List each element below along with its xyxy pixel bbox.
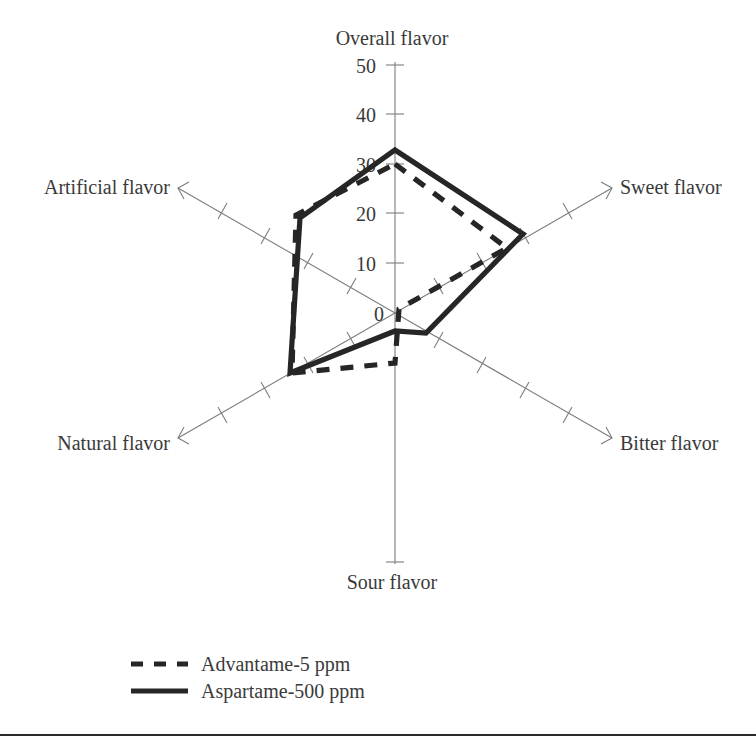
radar-chart-figure: 50 40 30 20 10 0 Overall flavor Sweet fl… xyxy=(0,0,756,741)
legend-item-aspartame: Aspartame-500 ppm xyxy=(131,680,365,703)
tick-natural-40 xyxy=(218,407,227,423)
series-group xyxy=(290,150,523,373)
radar-chart-svg: 50 40 30 20 10 0 Overall flavor Sweet fl… xyxy=(0,0,756,741)
bottom-divider-rule xyxy=(0,734,756,736)
axis-arrow-bitter-flavor xyxy=(601,427,612,444)
axis-label-bitter-flavor: Bitter flavor xyxy=(620,432,719,454)
axis-label-sweet-flavor: Sweet flavor xyxy=(620,176,722,198)
legend-label-aspartame: Aspartame-500 ppm xyxy=(201,680,365,703)
tick-label-20: 20 xyxy=(356,203,376,225)
tick-label-10: 10 xyxy=(356,253,376,275)
axis-label-natural-flavor: Natural flavor xyxy=(57,432,170,454)
axis-line-natural-flavor xyxy=(178,313,395,438)
tick-label-group: 50 40 30 20 10 0 xyxy=(356,55,384,325)
tick-label-0: 0 xyxy=(374,303,384,325)
tick-sweet-40 xyxy=(563,203,572,219)
legend: Advantame-5 ppm Aspartame-500 ppm xyxy=(131,653,365,703)
legend-item-advantame: Advantame-5 ppm xyxy=(131,653,351,676)
tick-label-50: 50 xyxy=(356,55,376,77)
axis-label-artificial-flavor: Artificial flavor xyxy=(44,176,170,198)
axes-group xyxy=(178,62,612,564)
series-aspartame-500-ppm xyxy=(290,150,523,373)
tick-bitter-40 xyxy=(563,407,572,423)
legend-label-advantame: Advantame-5 ppm xyxy=(201,653,351,676)
axis-label-sour-flavor: Sour flavor xyxy=(347,571,438,593)
series-advantame-5-ppm xyxy=(292,164,507,373)
axis-arrow-artificial-flavor xyxy=(178,182,189,199)
axis-arrow-sweet-flavor xyxy=(601,182,612,199)
axis-arrow-natural-flavor xyxy=(178,427,189,444)
tick-artificial-40 xyxy=(218,203,227,219)
axis-label-overall-flavor: Overall flavor xyxy=(336,27,449,49)
tick-label-40: 40 xyxy=(356,104,376,126)
